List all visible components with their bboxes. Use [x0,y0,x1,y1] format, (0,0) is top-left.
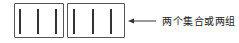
diagram-label: 两个集合或两组 [162,13,236,28]
